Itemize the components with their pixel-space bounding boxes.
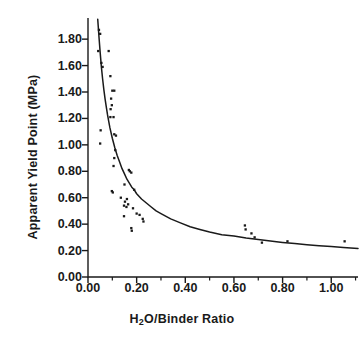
data-point xyxy=(127,203,129,205)
chart-figure: Apparent Yield Point (MPa) 0.000.200.400… xyxy=(0,0,364,342)
data-point xyxy=(112,191,114,193)
data-point xyxy=(108,50,110,52)
x-axis-tick-labels: 0.000.200.400.600.801.00 xyxy=(88,281,358,301)
data-point xyxy=(142,220,144,222)
data-point xyxy=(124,201,126,203)
data-point xyxy=(131,230,133,232)
data-point xyxy=(112,165,114,167)
data-point xyxy=(244,228,246,230)
data-point xyxy=(123,183,125,185)
data-point xyxy=(244,224,246,226)
data-point xyxy=(130,227,132,229)
y-tick-label: 0.20 xyxy=(36,244,82,258)
data-point xyxy=(100,62,102,64)
data-point xyxy=(132,207,134,209)
data-point xyxy=(343,240,345,242)
data-point xyxy=(125,206,127,208)
data-point xyxy=(97,50,99,52)
data-point xyxy=(99,33,101,35)
data-point xyxy=(101,66,103,68)
data-point xyxy=(123,204,125,206)
data-point xyxy=(123,215,125,217)
y-tick-label: 1.00 xyxy=(36,138,82,152)
data-point xyxy=(109,108,111,110)
x-tick-label: 1.00 xyxy=(301,281,361,295)
data-point xyxy=(133,189,135,191)
data-point xyxy=(112,116,114,118)
data-point xyxy=(286,240,288,242)
data-point xyxy=(113,90,115,92)
data-points xyxy=(97,29,346,244)
data-point xyxy=(142,218,144,220)
y-tick-label: 1.40 xyxy=(36,85,82,99)
data-point xyxy=(250,232,252,234)
data-point xyxy=(253,236,255,238)
data-point xyxy=(135,212,137,214)
data-point xyxy=(138,214,140,216)
y-tick-label: 1.60 xyxy=(36,59,82,73)
data-point xyxy=(120,197,122,199)
data-point xyxy=(113,157,115,159)
data-point xyxy=(98,29,100,31)
data-point xyxy=(111,104,113,106)
y-tick-label: 1.20 xyxy=(36,111,82,125)
data-point xyxy=(115,134,117,136)
data-point xyxy=(109,75,111,77)
y-axis-tick-labels: 0.000.200.400.600.801.001.201.401.601.80 xyxy=(34,18,82,277)
chart-canvas xyxy=(88,18,358,277)
data-point xyxy=(99,129,101,131)
plot-area xyxy=(88,18,358,277)
data-point xyxy=(109,116,111,118)
y-tick-label: 0.80 xyxy=(36,164,82,178)
x-axis-title: H2O/Binder Ratio xyxy=(0,312,364,327)
data-point xyxy=(130,171,132,173)
data-point xyxy=(261,241,263,243)
y-axis-ticks xyxy=(82,39,88,277)
axis-spines xyxy=(88,18,358,277)
y-tick-label: 0.40 xyxy=(36,217,82,231)
y-tick-label: 1.80 xyxy=(36,32,82,46)
data-point xyxy=(99,142,101,144)
y-tick-label: 0.60 xyxy=(36,191,82,205)
data-point xyxy=(114,149,116,151)
data-point xyxy=(110,97,112,99)
data-point xyxy=(126,198,128,200)
